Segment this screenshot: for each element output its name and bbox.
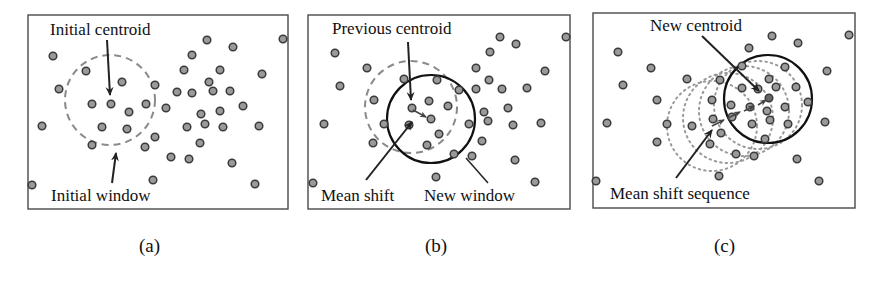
label-previous-centroid: Previous centroid [332,19,452,38]
label-mean-shift: Mean shift [321,186,394,205]
mean-shift-figure: Initial centroid Initial window Previou [0,0,872,284]
label-mean-shift-sequence: Mean shift sequence [610,184,750,203]
label-new-centroid: New centroid [650,16,743,35]
label-initial-centroid: Initial centroid [50,20,151,39]
arrow-new-window [466,158,488,183]
panel-a: Initial centroid Initial window [28,15,288,209]
label-initial-window: Initial window [51,186,151,205]
arrow-previous-centroid [408,42,411,100]
caption-b: (b) [425,235,447,257]
data-points-a [28,35,287,189]
caption-c: (c) [714,235,735,257]
arrow-initial-centroid [107,40,110,95]
arrow-mean-shift-sequence [676,130,712,178]
data-points-c [592,31,853,185]
mean-shift-sequence-arrows [712,100,766,126]
panel-c: New centroid Mean shift sequence [592,13,855,208]
data-points-b [309,33,570,187]
caption-a: (a) [139,235,160,257]
panel-b: Previous centroid Mean shift New window [308,15,570,209]
arrow-mean-shift-step [413,110,426,117]
panel-a-border [28,15,288,209]
arrow-initial-window [112,153,116,183]
label-new-window: New window [424,186,516,205]
